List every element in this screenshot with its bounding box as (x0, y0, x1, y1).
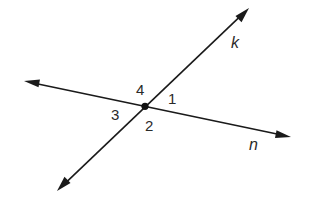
angle-label-1: 1 (168, 90, 176, 107)
intersection-point (141, 103, 148, 110)
line-n (24, 80, 291, 139)
intersecting-lines-diagram: 4 1 3 2 k n (0, 0, 313, 208)
line-k (57, 8, 249, 191)
angle-label-4: 4 (136, 81, 144, 98)
line-label-k: k (231, 34, 240, 51)
angle-label-3: 3 (111, 106, 119, 123)
line-k-upper-arrowhead (236, 8, 250, 22)
line-k-lower-arrowhead (57, 177, 71, 191)
angle-label-2: 2 (145, 117, 153, 134)
line-n-segment (32, 83, 283, 136)
line-n-right-arrowhead (275, 130, 291, 138)
line-label-n: n (249, 136, 258, 153)
line-k-segment (63, 14, 243, 186)
line-n-left-arrowhead (24, 80, 40, 88)
